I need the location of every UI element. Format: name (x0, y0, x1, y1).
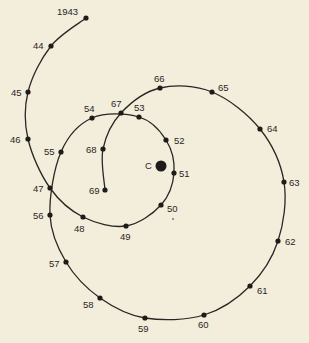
year-label: 46 (10, 134, 21, 145)
spiral-path (25, 18, 285, 320)
year-point-marker (281, 179, 286, 184)
year-point-marker (163, 137, 168, 142)
year-label: 64 (267, 123, 278, 134)
year-label: 59 (138, 323, 149, 334)
year-point-marker (25, 136, 30, 141)
year-point-marker (157, 85, 162, 90)
year-label: 49 (120, 231, 131, 242)
year-point-marker (48, 43, 53, 48)
year-label: 69 (89, 185, 100, 196)
year-point-marker (25, 89, 30, 94)
year-label: 53 (134, 102, 145, 113)
year-point-marker (158, 202, 163, 207)
year-point-marker (47, 185, 52, 190)
year-point-marker (247, 283, 252, 288)
labels-layer: 1943444546474849505152535455565758596061… (10, 6, 300, 334)
year-label: 47 (33, 183, 44, 194)
year-label: 65 (218, 82, 229, 93)
center-point-marker (156, 161, 167, 172)
year-label: 60 (198, 319, 209, 330)
year-point-marker (118, 110, 123, 115)
year-point-marker (63, 259, 68, 264)
year-point-marker (201, 312, 206, 317)
year-point-marker (142, 315, 147, 320)
year-label: 61 (257, 285, 268, 296)
center-label: C (145, 160, 152, 171)
spiral-diagram: 1943444546474849505152535455565758596061… (0, 0, 309, 343)
year-label: 48 (74, 223, 85, 234)
year-point-marker (80, 214, 85, 219)
year-point-marker (257, 126, 262, 131)
year-point-marker (171, 170, 176, 175)
year-point-marker (83, 15, 88, 20)
year-label: 68 (86, 144, 97, 155)
stray-dot (172, 218, 174, 220)
year-label: 44 (33, 40, 44, 51)
year-label: 55 (44, 146, 55, 157)
year-label: 56 (33, 210, 44, 221)
year-label: 62 (285, 236, 296, 247)
year-label: 51 (179, 168, 190, 179)
year-label: 54 (84, 103, 95, 114)
year-label: 67 (111, 98, 122, 109)
year-label: 52 (174, 135, 185, 146)
year-point-marker (89, 115, 94, 120)
year-label: 1943 (57, 6, 78, 17)
year-point-marker (102, 187, 107, 192)
year-label: 58 (83, 299, 94, 310)
year-label: 57 (49, 258, 60, 269)
year-label: 50 (167, 203, 178, 214)
year-label: 63 (289, 177, 300, 188)
year-point-marker (100, 146, 105, 151)
year-label: 66 (154, 73, 165, 84)
year-label: 45 (11, 87, 22, 98)
year-point-marker (123, 223, 128, 228)
year-point-marker (275, 238, 280, 243)
year-point-marker (97, 295, 102, 300)
year-point-marker (47, 212, 52, 217)
year-point-marker (136, 114, 141, 119)
year-point-marker (209, 89, 214, 94)
year-point-marker (58, 149, 63, 154)
